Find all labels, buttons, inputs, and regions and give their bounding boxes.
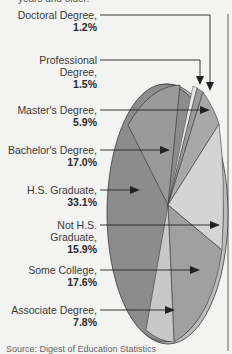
label-value: 17.0% — [8, 156, 97, 168]
label-name: Master's Degree, — [17, 104, 97, 116]
source-note: Source: Digest of Education Statistics — [6, 344, 156, 354]
label-professional: Professional Degree, 1.5% — [0, 54, 97, 90]
label-name: Bachelor's Degree, — [8, 144, 97, 156]
label-value: 33.1% — [27, 196, 97, 208]
label-name: Professional Degree, — [39, 54, 97, 78]
label-value: 1.5% — [0, 78, 97, 90]
label-name: Doctoral Degree, — [18, 9, 97, 21]
label-some-college: Some College, 17.6% — [28, 264, 97, 288]
label-value: 7.8% — [11, 316, 97, 328]
label-value: 1.2% — [18, 21, 97, 33]
label-name: Not H.S. Graduate, — [50, 219, 97, 243]
label-name: H.S. Graduate, — [27, 184, 97, 196]
label-masters: Master's Degree, 5.9% — [17, 104, 97, 128]
label-doctoral: Doctoral Degree, 1.2% — [18, 9, 97, 33]
label-associate: Associate Degree, 7.8% — [11, 304, 97, 328]
label-name: Associate Degree, — [11, 304, 97, 316]
label-value: 17.6% — [28, 276, 97, 288]
label-not-hs-graduate: Not H.S. Graduate, 15.9% — [37, 219, 97, 255]
label-value: 5.9% — [17, 116, 97, 128]
label-name: Some College, — [28, 264, 97, 276]
label-value: 15.9% — [37, 243, 97, 255]
label-bachelors: Bachelor's Degree, 17.0% — [8, 144, 97, 168]
label-hs-graduate: H.S. Graduate, 33.1% — [27, 184, 97, 208]
